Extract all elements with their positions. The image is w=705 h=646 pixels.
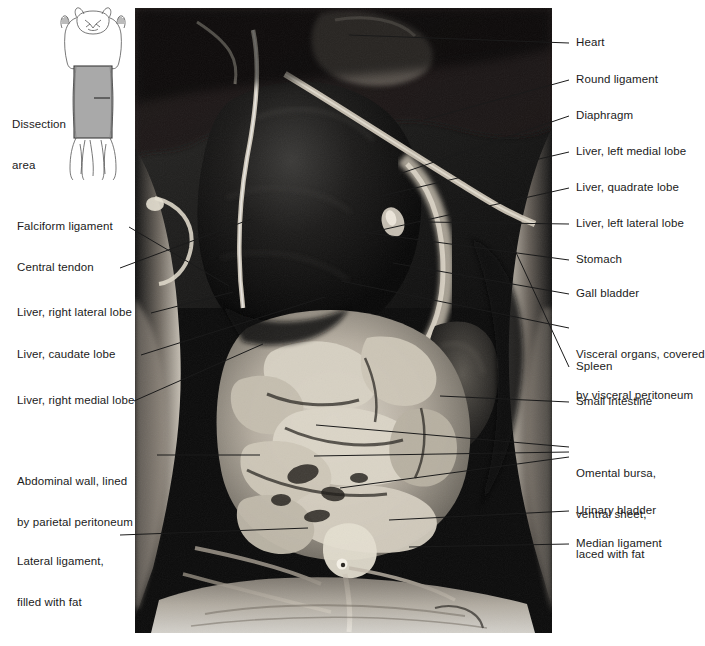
label-gall-bladder: Gall bladder bbox=[576, 287, 639, 301]
label-visceral-organs: Visceral organs, covered by visceral per… bbox=[576, 321, 705, 429]
label-urinary-bladder: Urinary bladder bbox=[576, 504, 656, 518]
label-stomach: Stomach bbox=[576, 253, 622, 267]
label-round-ligament: Round ligament bbox=[576, 73, 658, 87]
label-median-ligament: Median ligament bbox=[576, 537, 662, 551]
label-small-intestine: Small intestine bbox=[576, 395, 652, 409]
label-falciform-ligament: Falciform ligament bbox=[17, 220, 113, 234]
label-diaphragm: Diaphragm bbox=[576, 109, 633, 123]
inset-label-line2: area bbox=[12, 159, 98, 173]
label-heart: Heart bbox=[576, 36, 605, 50]
label-liver-left-medial-lobe: Liver, left medial lobe bbox=[576, 145, 686, 159]
label-liver-right-lateral-lobe: Liver, right lateral lobe bbox=[17, 306, 132, 320]
inset-label-dissection-area: Dissection area bbox=[12, 91, 98, 199]
label-liver-quadrate-lobe: Liver, quadrate lobe bbox=[576, 181, 679, 195]
label-liver-right-medial-lobe: Liver, right medial lobe bbox=[17, 394, 134, 408]
label-abdominal-wall-line2: by parietal peritoneum bbox=[17, 516, 133, 530]
inset-label-line1: Dissection bbox=[12, 118, 98, 132]
label-lateral-ligament-line1: Lateral ligament, bbox=[17, 555, 104, 569]
label-lateral-ligament-line2: filled with fat bbox=[17, 596, 104, 610]
label-central-tendon: Central tendon bbox=[17, 261, 94, 275]
dissection-photograph bbox=[135, 8, 552, 633]
label-lateral-ligament: Lateral ligament, filled with fat bbox=[17, 528, 104, 636]
label-liver-left-lateral-lobe: Liver, left lateral lobe bbox=[576, 217, 684, 231]
label-spleen: Spleen bbox=[576, 360, 612, 374]
label-liver-caudate-lobe: Liver, caudate lobe bbox=[17, 348, 115, 362]
label-omental-bursa-line1: Omental bursa, bbox=[576, 467, 656, 481]
label-abdominal-wall-line1: Abdominal wall, lined bbox=[17, 475, 133, 489]
